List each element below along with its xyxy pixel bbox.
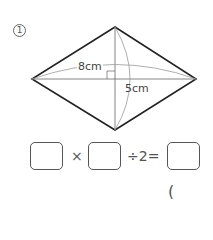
times-symbol: × <box>71 149 83 163</box>
answer-box-result[interactable] <box>167 142 200 170</box>
horizontal-dimension-arc <box>32 65 196 80</box>
vertical-dimension-arc <box>115 27 130 130</box>
divide-by-two-text: ÷2= <box>127 149 159 163</box>
answer-box-2[interactable] <box>88 142 121 170</box>
vertical-diagonal-label: 5cm <box>125 83 149 94</box>
answer-parenthesis: ( <box>168 184 174 199</box>
rhombus-outline <box>32 27 196 130</box>
horizontal-diagonal-label: 8cm <box>77 61 103 72</box>
right-angle-marker <box>107 71 115 79</box>
answer-box-1[interactable] <box>30 142 63 170</box>
